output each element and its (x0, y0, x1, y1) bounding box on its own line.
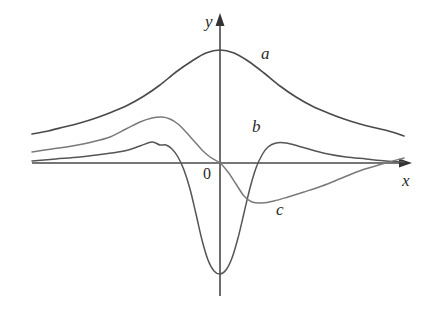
y-axis-label: y (205, 13, 213, 30)
origin-label: 0 (203, 166, 211, 182)
x-axis-label: x (402, 172, 410, 189)
curve-a-path (32, 50, 404, 136)
curves-group (32, 50, 404, 274)
curve-c-label: c (276, 201, 284, 218)
y-axis-arrowhead (216, 13, 225, 26)
curve-b-label: b (252, 118, 261, 135)
curve-a-label: a (261, 45, 270, 62)
curve-plot-canvas (0, 0, 435, 316)
curve-c-path (32, 117, 404, 203)
axes-group (32, 13, 412, 296)
math-figure: y x 0 a b c (0, 0, 435, 316)
x-axis-arrowhead (399, 159, 412, 168)
